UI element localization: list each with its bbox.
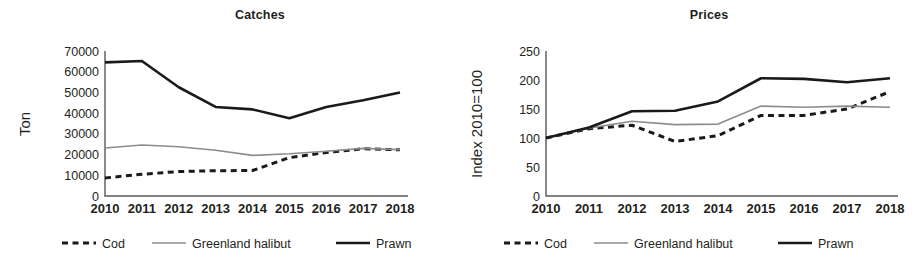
- legend-label-greenland_halibut: Greenland halibut: [192, 237, 291, 251]
- series-line-prawn: [105, 61, 400, 118]
- y-tick-label: 200: [519, 74, 540, 88]
- y-tick-label: 40000: [64, 107, 99, 121]
- x-tick-label: 2013: [201, 201, 230, 216]
- y-tick-label: 250: [519, 45, 540, 59]
- x-tick-label: 2010: [532, 201, 561, 216]
- y-tick-label: 50: [526, 161, 540, 175]
- x-tick-label: 2015: [275, 201, 304, 216]
- legend-label-cod: Cod: [544, 237, 567, 251]
- x-tick-label: 2017: [833, 201, 862, 216]
- y-tick-label: 50000: [64, 86, 99, 100]
- plot-area-catches: 0100002000030000400005000060000700002010…: [0, 0, 460, 272]
- y-axis-title: Ton: [16, 112, 33, 136]
- x-tick-label: 2017: [349, 201, 378, 216]
- y-tick-label: 20000: [64, 148, 99, 162]
- y-tick-label: 10000: [64, 169, 99, 183]
- y-tick-label: 30000: [64, 127, 99, 141]
- x-tick-label: 2016: [312, 201, 341, 216]
- x-tick-label: 2018: [386, 201, 415, 216]
- series-line-greenland_halibut: [546, 106, 890, 138]
- x-tick-label: 2011: [128, 201, 156, 216]
- x-tick-label: 2014: [238, 201, 268, 216]
- chart-panel-catches: Catches 01000020000300004000050000600007…: [0, 0, 460, 272]
- y-tick-label: 150: [519, 103, 540, 117]
- legend-label-greenland_halibut: Greenland halibut: [634, 237, 733, 251]
- y-tick-label: 60000: [64, 65, 99, 79]
- x-tick-label: 2018: [876, 201, 905, 216]
- x-tick-label: 2010: [91, 201, 120, 216]
- x-tick-label: 2011: [575, 201, 603, 216]
- y-tick-label: 70000: [64, 45, 99, 59]
- series-line-cod: [105, 149, 400, 178]
- legend-label-cod: Cod: [102, 237, 125, 251]
- legend-label-prawn: Prawn: [818, 237, 853, 251]
- plot-area-prices: 0501001502002502010201120122013201420152…: [460, 0, 920, 272]
- y-tick-label: 100: [519, 132, 540, 146]
- x-tick-label: 2016: [790, 201, 819, 216]
- legend-label-prawn: Prawn: [376, 237, 411, 251]
- x-tick-label: 2013: [661, 201, 690, 216]
- chart-panel-prices: Prices 050100150200250201020112012201320…: [460, 0, 920, 272]
- figure-two-line-charts: Catches 01000020000300004000050000600007…: [0, 0, 920, 272]
- x-tick-label: 2012: [618, 201, 647, 216]
- x-tick-label: 2015: [747, 201, 776, 216]
- series-line-cod: [546, 92, 890, 142]
- x-tick-label: 2012: [164, 201, 193, 216]
- y-axis-title: Index 2010=100: [468, 70, 485, 178]
- x-tick-label: 2014: [704, 201, 734, 216]
